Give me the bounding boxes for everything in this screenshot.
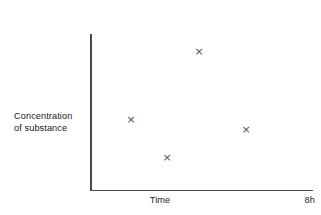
x-axis-line (90, 190, 313, 192)
x-axis-end-label: 8h (283, 194, 315, 206)
data-point-marker: × (240, 123, 253, 136)
data-point-marker: × (161, 151, 174, 164)
data-point-marker: × (125, 113, 138, 126)
data-point-marker: × (193, 45, 206, 58)
y-axis-title: Concentration of substance (14, 110, 88, 134)
scatter-chart-screenshot: Concentration of substance Time 8h ×××× (0, 0, 321, 215)
y-axis-line (90, 34, 92, 191)
plot-area: Concentration of substance Time 8h ×××× (0, 0, 321, 215)
x-axis-title: Time (138, 194, 182, 206)
